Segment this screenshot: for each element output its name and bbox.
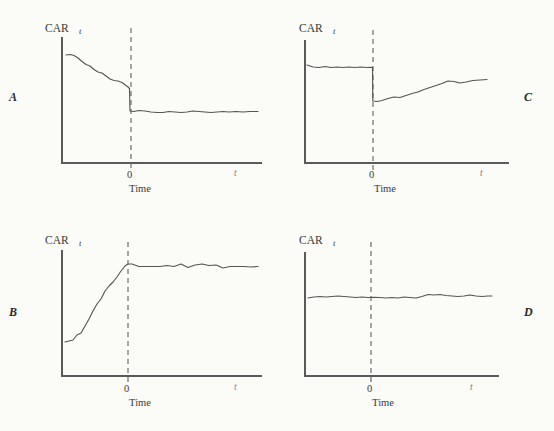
panel-c: CAR t 0 Time t xyxy=(277,0,554,215)
panel-d-chart: CAR t 0 Time t xyxy=(277,216,554,431)
panel-a: CAR t 0 Time t xyxy=(0,0,277,215)
panel-label-c: C xyxy=(524,90,532,105)
panel-b-x-axis-label: Time xyxy=(129,397,151,408)
panel-b: CAR t 0 Time t xyxy=(0,216,277,431)
panel-a-chart: CAR t 0 Time t xyxy=(0,0,277,215)
panel-a-y-axis-subscript: t xyxy=(79,26,82,36)
panel-d-car-curve xyxy=(308,295,492,299)
event-study-car-figure: CAR t 0 Time t CAR t 0 Time t CAR t xyxy=(0,0,554,431)
panel-a-car-curve xyxy=(66,55,258,113)
panel-a-event-tick-label: 0 xyxy=(127,169,132,180)
panel-b-car-curve xyxy=(65,264,258,342)
panel-c-axes xyxy=(305,40,509,163)
panel-d-x-axis-label: Time xyxy=(372,397,394,408)
panel-c-chart: CAR t 0 Time t xyxy=(277,0,554,215)
panel-d-x-axis-end-label: t xyxy=(470,382,473,392)
panel-b-event-tick-label: 0 xyxy=(124,383,129,394)
panel-a-x-axis-end-label: t xyxy=(234,168,237,178)
panel-d-y-axis-label: CAR xyxy=(299,234,323,246)
panel-c-y-axis-subscript: t xyxy=(333,26,336,36)
panel-d: CAR t 0 Time t xyxy=(277,216,554,431)
panel-d-axes xyxy=(305,252,499,376)
panel-a-axes xyxy=(62,37,262,163)
panel-b-chart: CAR t 0 Time t xyxy=(0,216,277,431)
panel-c-y-axis-label: CAR xyxy=(299,22,323,34)
panel-d-y-axis-subscript: t xyxy=(333,238,336,248)
panel-c-car-curve xyxy=(307,65,487,102)
panel-b-y-axis-label: CAR xyxy=(45,234,69,246)
panel-label-a: A xyxy=(9,90,17,105)
panel-c-event-tick-label: 0 xyxy=(369,169,374,180)
panel-a-x-axis-label: Time xyxy=(129,183,151,194)
panel-b-x-axis-end-label: t xyxy=(234,382,237,392)
panel-b-y-axis-subscript: t xyxy=(79,238,82,248)
panel-label-d: D xyxy=(524,305,533,320)
panel-a-y-axis-label: CAR xyxy=(45,22,69,34)
panel-c-x-axis-label: Time xyxy=(374,183,396,194)
panel-d-event-tick-label: 0 xyxy=(367,383,372,394)
panel-label-b: B xyxy=(9,305,17,320)
panel-c-x-axis-end-label: t xyxy=(480,168,483,178)
